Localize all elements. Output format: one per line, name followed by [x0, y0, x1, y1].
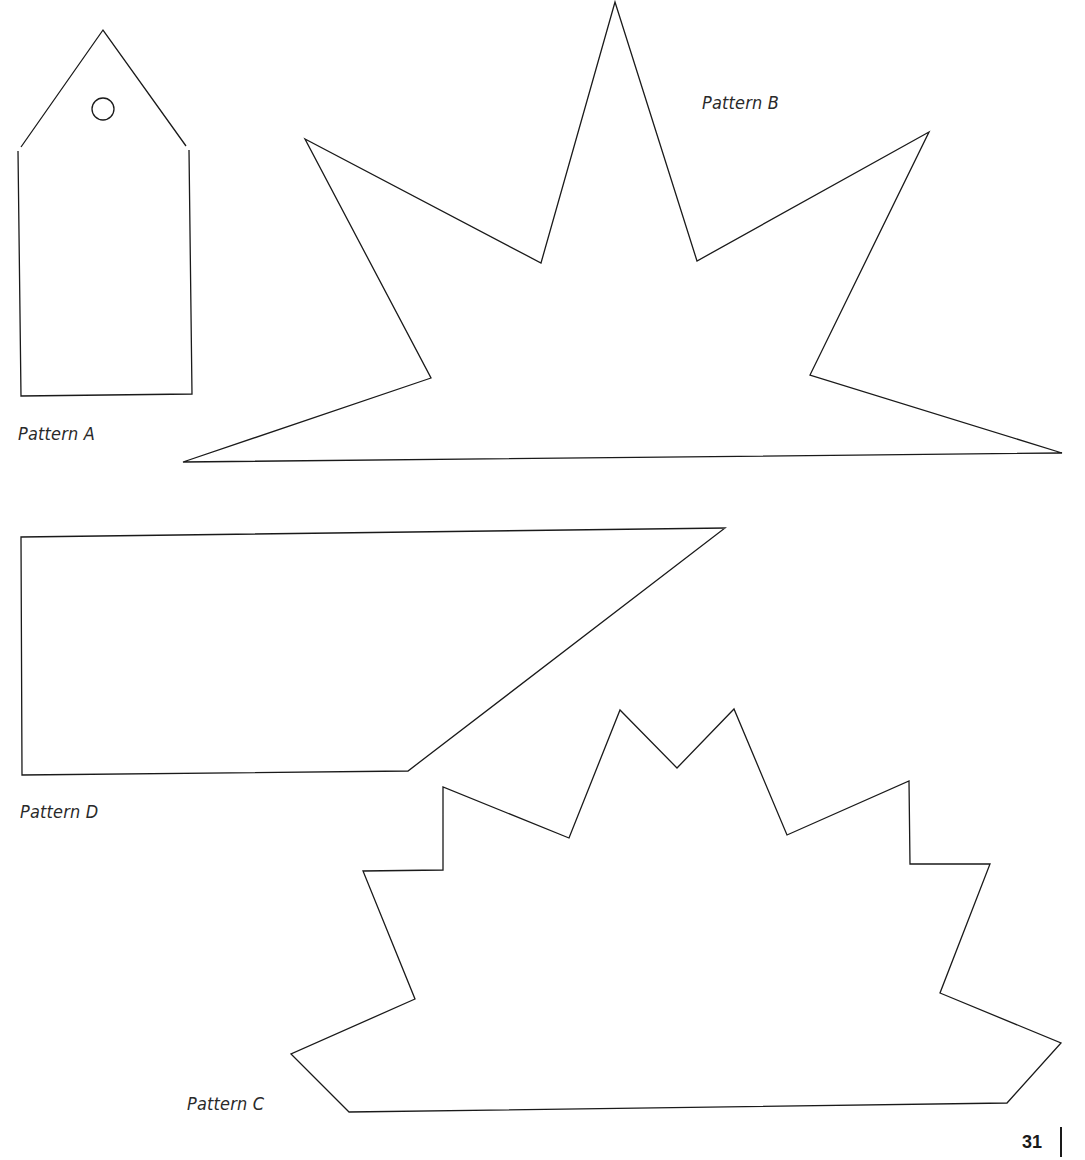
- pattern-d-shape: [21, 528, 725, 775]
- pattern-d-label: Pattern D: [20, 802, 98, 822]
- pattern-a-body: [18, 150, 192, 396]
- pattern-a-label: Pattern A: [18, 424, 95, 444]
- pattern-a-shape: [18, 30, 192, 396]
- page-number-rule: [1060, 1127, 1062, 1157]
- hole-icon: [92, 98, 114, 120]
- page-number: 31: [1022, 1132, 1042, 1153]
- pattern-b-shape: [183, 2, 1062, 462]
- pattern-c-shape: [291, 709, 1061, 1112]
- pattern-c-label: Pattern C: [187, 1094, 264, 1114]
- pattern-sheet: [0, 0, 1085, 1160]
- pattern-b-label: Pattern B: [702, 93, 779, 113]
- pattern-a-roof: [21, 30, 186, 147]
